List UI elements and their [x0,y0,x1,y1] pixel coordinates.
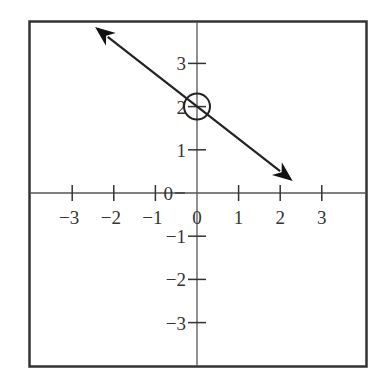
y-tick-label: −1 [166,226,186,247]
data-line [95,27,293,181]
y-tick-label: −2 [166,269,186,290]
y-tick-label: 0 [164,183,174,204]
x-tick-label: 1 [234,207,244,228]
arrowhead-lower-right-icon [272,162,293,181]
x-tick-label: 0 [192,207,202,228]
axes [30,22,366,366]
y-tick-label: 3 [177,53,187,74]
x-tick-label: −2 [101,207,121,228]
x-tick-label: −1 [142,207,162,228]
y-tick-label: −3 [166,313,186,334]
x-tick-label: 3 [317,207,327,228]
plot-frame [30,22,367,367]
arrowhead-upper-left-icon [95,27,116,46]
x-tick-label: 2 [275,207,285,228]
line-segment [108,37,280,171]
coordinate-plane: −3−2−101233210−1−2−3 [0,0,388,389]
y-tick-label: 1 [177,140,187,161]
x-tick-label: −3 [59,207,79,228]
